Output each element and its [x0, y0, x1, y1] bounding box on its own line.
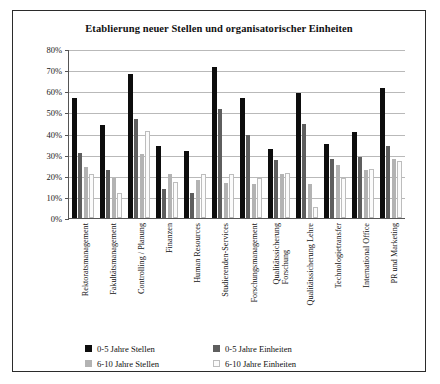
- x-axis-label: Finanzen: [166, 223, 175, 253]
- legend-swatch: [213, 345, 220, 352]
- y-tick-mark: [65, 198, 69, 199]
- x-axis-label: Fakultätsmanagement: [110, 223, 119, 295]
- legend-label: 6-10 Jahre Einheiten: [225, 359, 296, 369]
- y-tick-label: 30%: [15, 151, 62, 161]
- bar: [173, 182, 178, 218]
- bar: [140, 154, 145, 218]
- bar: [358, 157, 363, 218]
- x-label-cell: Forschungsmanagement: [236, 221, 264, 331]
- bar: [190, 193, 195, 218]
- bar: [280, 174, 285, 218]
- plot-area: [68, 50, 405, 219]
- legend-swatch: [213, 360, 220, 367]
- bar-group: [237, 50, 265, 218]
- x-axis-label: Forschungsmanagement: [251, 223, 260, 303]
- bar: [352, 132, 357, 218]
- x-label-cell: PR und Marketing: [377, 221, 405, 331]
- bar-group: [265, 50, 293, 218]
- bar: [257, 178, 262, 218]
- bar: [285, 173, 290, 218]
- x-axis-label: QualitätssicherungForschung: [273, 223, 290, 284]
- y-tick-label: 50%: [15, 108, 62, 118]
- bar: [268, 149, 273, 218]
- bar: [341, 178, 346, 218]
- bar: [392, 159, 397, 218]
- bar: [89, 174, 94, 218]
- bar: [184, 151, 189, 218]
- bar: [229, 174, 234, 218]
- bar-group: [69, 50, 97, 218]
- bar: [78, 153, 83, 218]
- bar: [196, 180, 201, 218]
- bar: [308, 184, 313, 218]
- bar: [380, 88, 385, 218]
- bar-group: [153, 50, 181, 218]
- y-tick-label: 80%: [15, 45, 62, 55]
- x-axis-label: Technologietransfer: [335, 223, 344, 288]
- bar-group: [349, 50, 377, 218]
- x-label-cell: Finanzen: [152, 221, 180, 331]
- x-label-cell: Qualitätssicherung Lehre: [293, 221, 321, 331]
- bar: [313, 207, 318, 218]
- chart-frame: Etablierung neuer Stellen und organisato…: [12, 10, 426, 372]
- x-axis-label: Qualitätssicherung Lehre: [307, 223, 316, 306]
- bar: [72, 98, 77, 218]
- bar: [145, 131, 150, 218]
- bar: [364, 170, 369, 218]
- y-tick-mark: [65, 71, 69, 72]
- y-tick-mark: [65, 156, 69, 157]
- legend-item: 0-5 Jahre Einheiten: [213, 344, 363, 354]
- x-axis-label: Controlling / Planung: [138, 223, 147, 294]
- chart-title: Etablierung neuer Stellen und organisato…: [13, 23, 425, 34]
- bar: [252, 184, 257, 218]
- bar-group: [321, 50, 349, 218]
- legend-label: 6-10 Jahre Stellen: [97, 359, 159, 369]
- x-label-cell: Rektoratsmanagement: [68, 221, 96, 331]
- bar: [246, 135, 251, 218]
- bar: [224, 183, 229, 218]
- y-tick-label: 40%: [15, 130, 62, 140]
- x-axis-label: Rektoratsmanagement: [82, 223, 91, 296]
- bar: [168, 174, 173, 218]
- bar: [296, 93, 301, 218]
- legend-swatch: [85, 345, 92, 352]
- legend-item: 6-10 Jahre Einheiten: [213, 359, 363, 369]
- bar-groups: [69, 50, 405, 218]
- bar-group: [97, 50, 125, 218]
- bar: [369, 169, 374, 218]
- y-tick-mark: [65, 135, 69, 136]
- bar: [100, 125, 105, 218]
- x-label-cell: QualitätssicherungForschung: [265, 221, 293, 331]
- bar-group: [209, 50, 237, 218]
- bar: [134, 119, 139, 218]
- bar: [156, 146, 161, 218]
- x-label-cell: Technologietransfer: [321, 221, 349, 331]
- y-tick-label: 20%: [15, 172, 62, 182]
- legend-item: 0-5 Jahre Stellen: [85, 344, 213, 354]
- legend-label: 0-5 Jahre Stellen: [97, 344, 155, 354]
- bar: [112, 178, 117, 218]
- bar-group: [181, 50, 209, 218]
- legend-item: 6-10 Jahre Stellen: [85, 359, 213, 369]
- x-label-cell: International Office: [349, 221, 377, 331]
- bar-group: [125, 50, 153, 218]
- bar: [274, 160, 279, 218]
- x-axis-labels: RektoratsmanagementFakultätsmanagementCo…: [68, 221, 405, 331]
- y-tick-mark: [65, 219, 69, 220]
- y-tick-label: 70%: [15, 66, 62, 76]
- x-label-cell: Controlling / Planung: [124, 221, 152, 331]
- x-label-cell: Fakultätsmanagement: [96, 221, 124, 331]
- y-tick-mark: [65, 177, 69, 178]
- y-tick-mark: [65, 50, 69, 51]
- bar: [84, 167, 89, 218]
- legend-label: 0-5 Jahre Einheiten: [225, 344, 292, 354]
- bar: [386, 146, 391, 218]
- x-axis-label: International Office: [363, 223, 372, 288]
- bar: [336, 165, 341, 218]
- x-axis-label: Human Resources: [194, 223, 203, 283]
- bar: [212, 67, 217, 218]
- y-tick-label: 60%: [15, 87, 62, 97]
- bar: [201, 174, 206, 218]
- bar: [162, 189, 167, 218]
- x-axis-label: PR und Marketing: [391, 223, 400, 284]
